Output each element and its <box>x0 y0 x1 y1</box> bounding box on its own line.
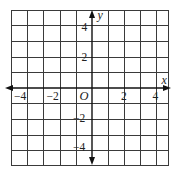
x-tick-label: −4 <box>14 90 26 102</box>
x-tick-label: −2 <box>47 90 59 102</box>
y-tick-label: −4 <box>73 141 85 153</box>
background <box>0 0 176 174</box>
origin-label: O <box>80 89 89 103</box>
x-tick-label: 4 <box>153 90 159 102</box>
y-tick-label: 2 <box>82 51 88 63</box>
y-tick-label: 4 <box>82 21 88 33</box>
x-tick-label: 2 <box>121 90 127 102</box>
y-axis-label: y <box>97 8 104 22</box>
coordinate-plane: x y O −4 −2 2 4 4 2 −2 −4 <box>0 0 176 174</box>
y-tick-label: −2 <box>73 112 85 124</box>
x-axis-label: x <box>161 73 168 87</box>
